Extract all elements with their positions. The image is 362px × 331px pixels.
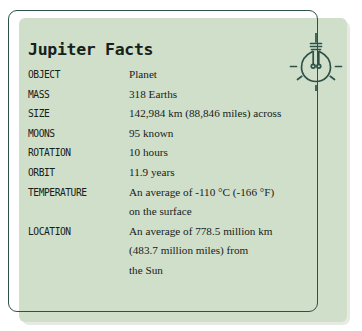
fact-value-line: An average of -110 °C (-166 °F) (129, 183, 328, 203)
table-row: SIZE 142,984 km (88,846 miles) across (28, 104, 328, 124)
fact-value-line: 142,984 km (88,846 miles) across (129, 104, 328, 124)
fact-label-orbit: ORBIT (28, 163, 129, 183)
table-row: TEMPERATURE An average of -110 °C (-166 … (28, 183, 328, 222)
facts-table-body: OBJECT Planet MASS 318 Earths SIZE 142,9… (28, 65, 328, 281)
fact-value-orbit: 11.9 years (129, 163, 328, 183)
fact-value-moons: 95 known (129, 124, 328, 144)
fact-value-rotation: 10 hours (129, 143, 328, 163)
fact-value-line: 95 known (129, 124, 328, 144)
table-row: OBJECT Planet (28, 65, 328, 85)
fact-label-moons: MOONS (28, 124, 129, 144)
fact-value-location: An average of 778.5 million km (483.7 mi… (129, 222, 328, 281)
table-row: MASS 318 Earths (28, 85, 328, 105)
fact-value-line: 11.9 years (129, 163, 328, 183)
fact-value-line: An average of 778.5 million km (129, 222, 328, 242)
fact-label-rotation: ROTATION (28, 143, 129, 163)
fact-label-location: LOCATION (28, 222, 129, 281)
fact-value-line: (483.7 million miles) from (129, 241, 328, 261)
fact-value-line: 10 hours (129, 143, 328, 163)
lightbulb-icon (286, 33, 346, 91)
page-title: Jupiter Facts (28, 40, 328, 60)
fact-value-line: the Sun (129, 261, 328, 281)
fact-label-object: OBJECT (28, 65, 129, 85)
table-row: ROTATION 10 hours (28, 143, 328, 163)
fact-value-line: on the surface (129, 202, 328, 222)
table-row: LOCATION An average of 778.5 million km … (28, 222, 328, 281)
table-row: MOONS 95 known (28, 124, 328, 144)
lightbulb-icon-svg (286, 33, 346, 91)
card-content: Jupiter Facts OBJECT Planet MASS 318 Ear… (28, 40, 328, 281)
fact-label-size: SIZE (28, 104, 129, 124)
fact-card-page: Jupiter Facts OBJECT Planet MASS 318 Ear… (0, 0, 362, 331)
fact-value-size: 142,984 km (88,846 miles) across (129, 104, 328, 124)
fact-label-temperature: TEMPERATURE (28, 183, 129, 222)
fact-value-temperature: An average of -110 °C (-166 °F) on the s… (129, 183, 328, 222)
table-row: ORBIT 11.9 years (28, 163, 328, 183)
fact-label-mass: MASS (28, 85, 129, 105)
facts-table: OBJECT Planet MASS 318 Earths SIZE 142,9… (28, 65, 328, 281)
